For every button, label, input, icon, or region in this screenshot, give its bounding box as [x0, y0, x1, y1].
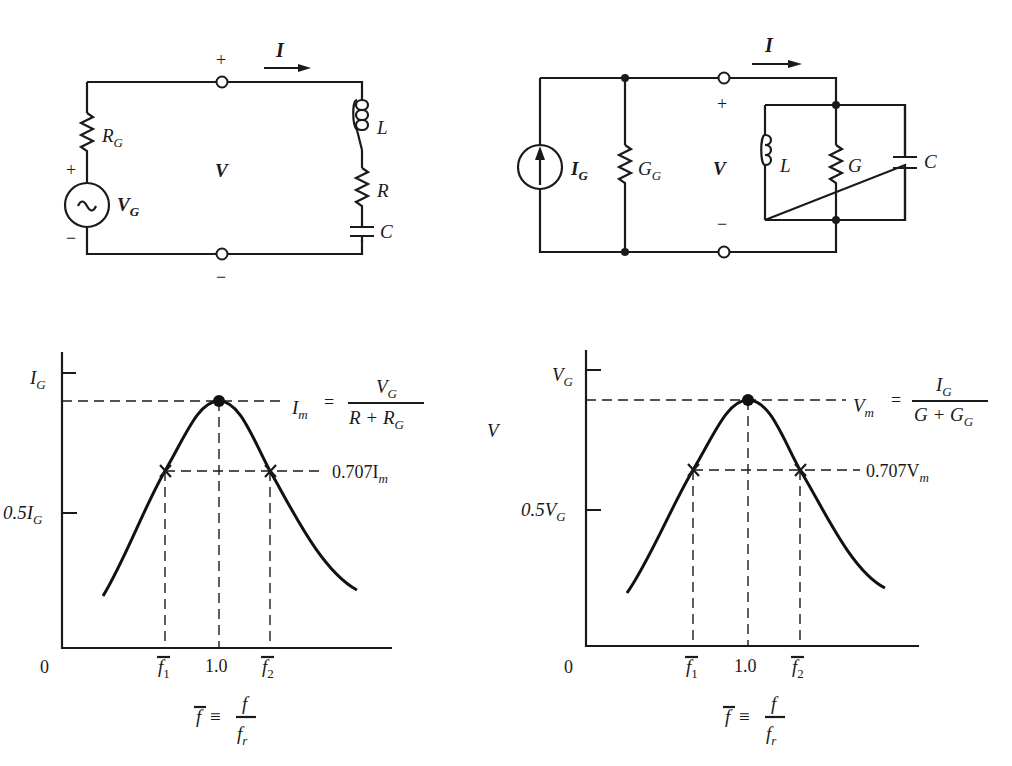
resistor-rg-icon	[81, 113, 93, 162]
equals-sign: =	[324, 392, 334, 412]
response-curve	[103, 401, 357, 596]
half-power-label: 0.707Im	[332, 462, 388, 486]
minus-sign-right: −	[717, 214, 727, 234]
voltage-label: V	[215, 160, 229, 181]
resistor-label: R	[376, 180, 389, 201]
gg-label: GG	[638, 158, 662, 183]
plus-sign-right: +	[717, 94, 727, 114]
xdef-lhs: f	[196, 706, 204, 727]
peak-lhs: Im	[291, 397, 308, 422]
x-tick-center: 1.0	[205, 656, 228, 676]
y-tick-half: 0.5IG	[3, 502, 43, 527]
rg-label: RG	[101, 125, 124, 150]
x-tick-f2-right: f2	[792, 656, 804, 681]
parallel-circuit: I + − V IG GG L G C	[518, 34, 937, 258]
peak-numerator: VG	[376, 376, 398, 401]
peak-point	[213, 395, 225, 407]
response-curve-right	[627, 400, 885, 593]
resistor-r-icon	[356, 168, 368, 214]
current-arrow-right-icon	[788, 60, 802, 68]
origin-label: 0	[40, 657, 49, 677]
ig-label: IG	[570, 158, 588, 183]
half-power-label-right: 0.707Vm	[866, 461, 929, 485]
x-tick-center-right: 1.0	[734, 656, 757, 676]
y-tick-top-right: VG	[552, 364, 574, 389]
vg-label: VG	[117, 194, 140, 219]
inductor-label: L	[376, 117, 388, 138]
figure-canvas: I + − V RG + − VG L R C	[0, 0, 1012, 766]
x-tick-f2: f2	[262, 656, 274, 681]
y-tick-half-right: 0.5VG	[521, 499, 566, 524]
equals-sign-right: =	[891, 390, 901, 410]
x-tick-f1-right: f1	[686, 656, 698, 681]
inductor-l2-icon	[761, 135, 771, 165]
xdef-num: f	[242, 693, 250, 714]
current-label: I	[275, 39, 285, 61]
capacitor-label: C	[380, 221, 393, 242]
peak-point-right	[742, 394, 754, 406]
voltage-label-right: V	[713, 158, 727, 179]
origin-label-right: 0	[564, 657, 573, 677]
xdef-den: fr	[237, 723, 248, 748]
current-label-right: I	[764, 34, 774, 56]
series-circuit: I + − V RG + − VG L R C	[65, 39, 393, 287]
series-resonance-chart: IG 0.5IG 0 f1 1.0 f2 Im = VG R + RG 0.70…	[3, 352, 424, 748]
capacitor-label-right: C	[924, 151, 937, 172]
inductor-l-icon	[356, 88, 368, 130]
capacitor-c-icon	[350, 227, 374, 236]
plus-terminal-right	[719, 73, 730, 84]
current-arrow-icon	[298, 64, 311, 72]
y-axis-label: V	[487, 420, 501, 441]
source-plus-sign: +	[66, 160, 76, 180]
xdef-equiv: ≡	[210, 706, 221, 727]
minus-terminal-right	[719, 247, 730, 258]
chart-axes	[62, 352, 392, 648]
minus-terminal	[217, 249, 228, 260]
plus-sign: +	[216, 50, 226, 70]
peak-numerator-right: IG	[935, 374, 952, 399]
conductance-g-icon	[830, 145, 842, 187]
inductor-label-right: L	[779, 155, 791, 176]
xdef-equiv-right: ≡	[739, 706, 750, 727]
xdef-num-right: f	[771, 693, 779, 714]
xdef-lhs-right: f	[725, 706, 733, 727]
chart-axes-right	[586, 350, 919, 646]
plus-terminal	[217, 77, 228, 88]
xdef-den-right: fr	[766, 723, 777, 748]
parallel-resonance-chart: V VG 0.5VG 0 f1 1.0 f2 Vm = IG G + GG 0.…	[487, 350, 988, 748]
conductance-gg-icon	[619, 145, 631, 187]
peak-lhs-right: Vm	[853, 395, 874, 420]
y-tick-top: IG	[29, 367, 46, 392]
peak-denominator: R + RG	[348, 407, 405, 432]
conductance-label: G	[848, 155, 862, 176]
source-minus-sign: −	[66, 228, 76, 248]
x-tick-f1: f1	[158, 656, 170, 681]
peak-denominator-right: G + GG	[914, 404, 974, 429]
minus-sign: −	[216, 267, 226, 287]
